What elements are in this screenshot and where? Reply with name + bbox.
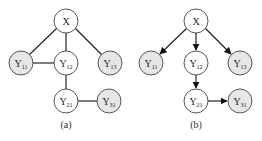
- node-y12: Y12: [184, 51, 208, 75]
- node-subscript: 12: [197, 64, 203, 70]
- node-y31: Y31: [97, 89, 121, 113]
- edge-x-y11: [29, 28, 57, 55]
- node-subscript: 31: [241, 102, 247, 108]
- edge-x-y13: [75, 28, 102, 55]
- edge-x-y13: [205, 28, 231, 54]
- node-subscript: 13: [241, 64, 247, 70]
- node-y21: Y21: [54, 89, 78, 113]
- node-y21: Y21: [184, 89, 208, 113]
- node-x: X: [184, 9, 208, 33]
- node-y11: Y11: [9, 51, 33, 75]
- node-subscript: 11: [22, 64, 28, 70]
- node-y13: Y13: [228, 51, 252, 75]
- graphical-models-figure: X Y11 Y12 Y13 Y21 Y31 (a): [0, 0, 262, 141]
- node-label: Y: [189, 96, 196, 107]
- node-y13: Y13: [98, 51, 122, 75]
- node-y31: Y31: [228, 89, 252, 113]
- node-label: Y: [102, 96, 109, 107]
- node-label: Y: [59, 96, 66, 107]
- node-subscript: 21: [67, 102, 73, 108]
- node-label: X: [62, 16, 70, 27]
- caption-a: (a): [60, 119, 71, 131]
- node-subscript: 21: [197, 102, 203, 108]
- node-label: Y: [233, 58, 240, 69]
- node-label: Y: [59, 58, 66, 69]
- diagram-a: X Y11 Y12 Y13 Y21 Y31 (a): [9, 9, 122, 131]
- node-label: Y: [189, 58, 196, 69]
- node-subscript: 11: [152, 64, 158, 70]
- edge-x-y11: [160, 28, 187, 54]
- node-subscript: 31: [110, 102, 116, 108]
- node-label: Y: [144, 58, 151, 69]
- node-y11: Y11: [139, 51, 163, 75]
- node-subscript: 13: [111, 64, 117, 70]
- node-x: X: [54, 9, 78, 33]
- node-y12: Y12: [54, 51, 78, 75]
- diagram-b: X Y11 Y12 Y13 Y21 Y31 (b): [139, 9, 252, 131]
- node-label: X: [192, 16, 200, 27]
- node-subscript: 12: [67, 64, 73, 70]
- node-label: Y: [14, 58, 21, 69]
- node-label: Y: [233, 96, 240, 107]
- node-label: Y: [103, 58, 110, 69]
- caption-b: (b): [190, 119, 202, 131]
